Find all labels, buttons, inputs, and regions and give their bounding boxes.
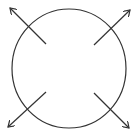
- expand-outward-diagram: [0, 0, 136, 135]
- arrow-up-left-icon: [10, 8, 46, 44]
- arrow-down-left-icon: [8, 92, 46, 127]
- arrow-down-right-icon: [94, 93, 129, 128]
- arrow-up-right-icon: [94, 10, 130, 45]
- diagram-svg: [0, 0, 136, 135]
